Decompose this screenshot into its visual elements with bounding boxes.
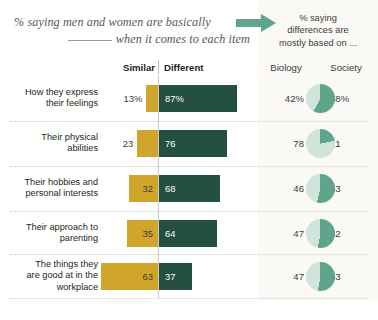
chart-row: The things theyare good at in theworkpla…: [0, 254, 378, 298]
society-value: 52: [330, 220, 370, 247]
row-label: The things theyare good at in theworkpla…: [6, 259, 98, 293]
pie-chart: [306, 219, 335, 248]
row-label-line: workplace: [6, 282, 98, 293]
row-label-line: are good at in the: [6, 270, 98, 281]
row-separator: [10, 211, 368, 212]
bar-value-similar: 13%: [106, 85, 142, 112]
row-separator: [10, 254, 368, 255]
biology-value: 47: [258, 263, 304, 290]
bar-value-similar: 23: [97, 130, 133, 157]
right-panel-heading-line-3: mostly based on ...: [262, 37, 374, 49]
pie-chart: [306, 174, 335, 203]
column-header-similar: Similar: [103, 62, 155, 73]
pie-chart: [306, 129, 335, 158]
bar-value-similar: 32: [129, 175, 153, 202]
chart-title-line-1: % saying men and women are basically: [14, 14, 252, 31]
row-label: How they expresstheir feelings: [6, 87, 98, 110]
row-label: Their physicalabilities: [6, 132, 98, 155]
chart-row: Their hobbies andpersonal interests32684…: [0, 166, 378, 210]
bar-value-similar: 63: [101, 263, 153, 290]
row-label-line: their feelings: [6, 98, 98, 109]
bar-value-different: 37: [165, 263, 191, 290]
bottom-rule: [10, 298, 368, 299]
column-header-biology: Biology: [258, 62, 314, 73]
chart-title: % saying men and women are basically whe…: [14, 14, 252, 48]
right-panel-heading: % saying differences are mostly based on…: [262, 12, 374, 49]
society-value: 58%: [330, 85, 370, 112]
chart-title-line-2: when it comes to each item: [14, 31, 252, 48]
chart-row: How they expresstheir feelings13%87%42%5…: [0, 76, 378, 120]
bar-value-similar: 35: [127, 220, 154, 247]
chart-title-line-2-text: when it comes to each item: [116, 32, 250, 46]
row-label-line: Their hobbies and: [6, 177, 98, 188]
pointer-arrow-icon: [236, 14, 276, 32]
bar-value-different: 76: [165, 130, 226, 157]
society-value: 53: [330, 175, 370, 202]
row-label-line: personal interests: [6, 188, 98, 199]
chart-row: Their approach toparenting35644752: [0, 211, 378, 255]
bar-value-different: 64: [165, 220, 216, 247]
bar-similar: [146, 85, 158, 112]
biology-value: 46: [258, 175, 304, 202]
row-label-line: Their approach to: [6, 222, 98, 233]
biology-value: 78: [258, 130, 304, 157]
column-header-divider: [158, 60, 159, 74]
chart-row: Their physicalabilities23767821: [0, 121, 378, 165]
right-panel-heading-line-1: % saying: [262, 12, 374, 24]
row-label-line: Their physical: [6, 132, 98, 143]
row-label-line: The things they: [6, 259, 98, 270]
biology-value: 42%: [258, 85, 304, 112]
pie-chart: [306, 262, 335, 291]
column-header-society: Society: [318, 62, 374, 73]
title-blank-underline: [68, 40, 112, 41]
pie-chart: [306, 84, 335, 113]
row-label-line: How they express: [6, 87, 98, 98]
right-panel-heading-line-2: differences are: [262, 24, 374, 36]
society-value: 21: [330, 130, 370, 157]
bar-value-different: 68: [165, 175, 219, 202]
row-label: Their approach toparenting: [6, 222, 98, 245]
row-label: Their hobbies andpersonal interests: [6, 177, 98, 200]
row-label-line: parenting: [6, 233, 98, 244]
row-separator: [10, 121, 368, 122]
society-value: 53: [330, 263, 370, 290]
bar-value-different: 87%: [165, 85, 236, 112]
biology-value: 47: [258, 220, 304, 247]
row-label-line: abilities: [6, 143, 98, 154]
column-header-different: Different: [164, 62, 228, 73]
bar-similar: [137, 130, 158, 157]
row-separator: [10, 166, 368, 167]
